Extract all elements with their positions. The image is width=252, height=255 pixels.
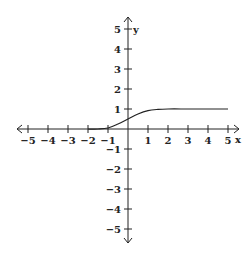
y-tick-label: −2 — [106, 164, 121, 175]
y-tick-label: −3 — [106, 184, 121, 195]
y-tick-label: 4 — [114, 44, 121, 55]
y-tick-label: 2 — [114, 84, 121, 95]
y-tick-label: −5 — [106, 224, 121, 235]
x-tick-label: −3 — [60, 135, 75, 146]
y-tick-label: 1 — [114, 104, 121, 115]
x-tick-label: −2 — [80, 135, 95, 146]
x-tick-label: 5 — [225, 135, 232, 146]
y-axis-label: y — [132, 24, 140, 35]
y-tick-label: −4 — [106, 204, 121, 215]
function-curve — [88, 109, 228, 129]
x-tick-label: −5 — [20, 135, 35, 146]
x-tick-label: 3 — [185, 135, 192, 146]
x-tick-label: 2 — [165, 135, 172, 146]
coordinate-plane: −5−4−3−2−11234554321−1−2−3−4−5 x y — [0, 0, 252, 255]
x-tick-label: 4 — [205, 135, 212, 146]
y-tick-label: 3 — [114, 64, 121, 75]
x-tick-label: −4 — [40, 135, 55, 146]
x-axis-label: x — [235, 134, 242, 145]
y-tick-label: −1 — [106, 144, 121, 155]
x-tick-label: 1 — [145, 135, 152, 146]
y-tick-label: 5 — [114, 24, 121, 35]
